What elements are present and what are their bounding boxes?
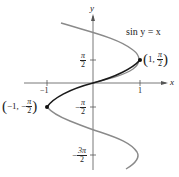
- point-max-label: (1, π2): [143, 51, 168, 68]
- y-axis-arrow-icon: [91, 14, 95, 21]
- x-tick-label-1: 1: [138, 87, 142, 95]
- y-tick-label-neg-3pi-over-2: −3π2: [72, 147, 87, 164]
- y-axis-label: y: [90, 4, 94, 13]
- y-tick-label-pi-over-2: π2: [80, 52, 86, 69]
- point-min: [45, 105, 49, 109]
- ticks: [47, 60, 140, 155]
- y-tick-label-neg-pi-over-2: −π2: [75, 99, 86, 116]
- x-axis-label: x: [170, 78, 174, 87]
- point-min-label: (−1, −π2): [2, 98, 37, 115]
- curve-lower-branch: [47, 107, 138, 169]
- equation-label: sin y = x: [126, 27, 161, 37]
- point-max: [138, 58, 142, 62]
- x-tick-label-neg1: −1: [40, 87, 49, 95]
- x-axis-arrow-icon: [161, 81, 168, 85]
- curve-principal-branch: [47, 60, 140, 107]
